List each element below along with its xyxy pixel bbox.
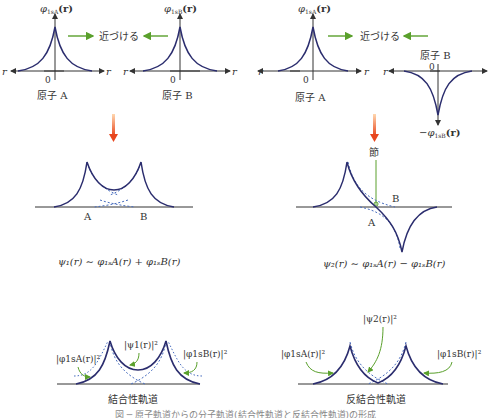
axis-r-label-right: r — [232, 66, 238, 77]
figure-caption: 図 ─ 原子軌道からの分子軌道(結合性軌道と反結合性軌道)の形成 — [0, 408, 491, 418]
antibonding-orbital-title: 反結合性軌道 — [346, 393, 406, 405]
psi1-formula: ψ₁(r) ∼ φ₁ₛA(r) + φ₁ₛB(r) — [58, 256, 181, 267]
origin-label: 0 — [45, 75, 51, 85]
bonding-orbital-title: 結合性軌道 — [108, 393, 158, 405]
label-b: B — [140, 211, 147, 222]
phi-1sA-dashed — [348, 162, 395, 207]
label-psi1-sq: |ψ1(r)|² — [124, 340, 158, 351]
psi1-curve — [54, 162, 174, 207]
origin-label: 0 — [170, 75, 176, 85]
ylabel-neg-phi-1sB: −φ1sB(r) — [419, 127, 460, 139]
top-left-atom-a-plot: φ1sA(r) r r 0 原子 A — [2, 3, 112, 101]
label-phi-1sB-sq: |φ1sB(r)|² — [437, 349, 482, 360]
ylabel-phi-1sA: φ1sA(r) — [298, 3, 331, 15]
psi2-formula: ψ₂(r) ∼ φ₁ₛA(r) − φ₁ₛB(r) — [323, 258, 446, 269]
atom-a-name: 原子 A — [37, 90, 68, 101]
label-phi-1sA-sq: |φ1sA(r)|² — [56, 354, 101, 365]
axis-r-label-right: r — [364, 66, 370, 77]
antibonding-density-plot: |φ1sA(r)|² |ψ2(r)|² |φ1sB(r)|² 反結合性軌道 — [281, 314, 482, 405]
node-label: 節 — [369, 146, 379, 158]
phi-1sB-tail-dashed — [94, 200, 128, 207]
bonding-wavefunction-plot: A B ψ₁(r) ∼ φ₁ₛA(r) + φ₁ₛB(r) — [35, 162, 193, 267]
top-right-atom-a-plot: φ1sA(r) r r 0 原子 A — [258, 3, 370, 103]
origin-label: 0 — [429, 62, 435, 72]
origin-label: 0 — [303, 75, 309, 85]
approach-label-right: 近づける — [360, 30, 400, 42]
orange-arrow-right — [370, 114, 379, 142]
orange-arrow-left — [109, 114, 118, 142]
green-pointer-psi2 — [368, 327, 383, 372]
green-pointer-phiB — [184, 362, 197, 373]
label-psi2-sq: |ψ2(r)|² — [363, 314, 397, 325]
atom-b-name: 原子 B — [162, 90, 193, 101]
axis-r-label-right: r — [106, 66, 112, 77]
label-phi-1sB-sq: |φ1sB(r)|² — [183, 349, 228, 360]
antibonding-wavefunction-plot: 節 A B ψ₂(r) ∼ φ₁ₛA(r) − φ₁ₛB(r) — [296, 146, 452, 269]
ylabel-phi-1sA: φ1sA(r) — [40, 3, 73, 15]
atom-b-name: 原子 B — [420, 50, 451, 61]
label-a: A — [367, 217, 376, 228]
diagram-canvas: φ1sA(r) r r 0 原子 A 近づける φ1sB(r) r r 0 原子… — [0, 0, 491, 418]
axis-r-label-left: r — [383, 66, 389, 77]
label-phi-1sA-sq: |φ1sA(r)|² — [281, 349, 326, 360]
approach-label-left: 近づける — [99, 30, 139, 42]
label-b: B — [392, 193, 399, 204]
approach-arrows-right: 近づける — [328, 30, 428, 42]
top-right-atom-b-neg-plot: 原子 B 0 r −φ1sB(r) — [383, 50, 487, 139]
phi-1sA-tail-dashed — [100, 200, 135, 207]
psi2-sq-curve — [313, 346, 443, 384]
top-left-atom-b-plot: φ1sB(r) r r 0 原子 B — [123, 3, 238, 101]
bonding-density-plot: |φ1sA(r)|² |ψ1(r)|² |φ1sB(r)|² 結合性軌道 — [56, 340, 228, 405]
green-pointer-psi1 — [130, 353, 139, 365]
ylabel-phi-1sB: φ1sB(r) — [164, 3, 197, 15]
green-pointer-phiA — [306, 362, 333, 373]
axis-r-label-left: r — [2, 66, 8, 77]
atom-a-name: 原子 A — [295, 92, 326, 103]
neg-phi-1sB-dashed — [360, 207, 400, 248]
axis-r-label-left: r — [123, 66, 129, 77]
green-pointer-phiB — [424, 362, 452, 373]
approach-arrows-left: 近づける — [68, 30, 168, 42]
label-a: A — [83, 211, 92, 222]
